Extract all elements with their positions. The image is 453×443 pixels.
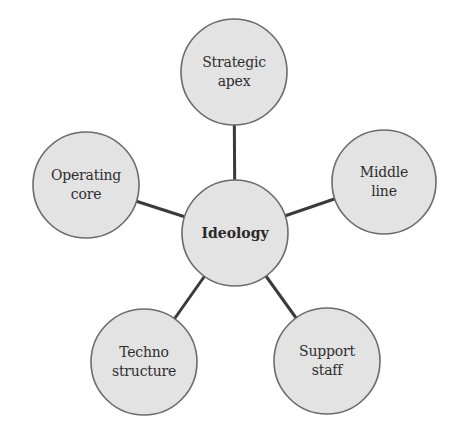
node-label-middle-line: Middle line	[332, 130, 436, 234]
node-label-strategic-apex: Strategic apex	[181, 19, 287, 125]
diagram-canvas: Strategic apex Middle line Support staff…	[0, 0, 453, 443]
node-label-ideology: Ideology	[182, 180, 288, 286]
node-label-support-staff: Support staff	[274, 308, 380, 414]
node-label-operating-core: Operating core	[33, 132, 139, 238]
node-label-techno-structure: Techno structure	[91, 309, 197, 415]
